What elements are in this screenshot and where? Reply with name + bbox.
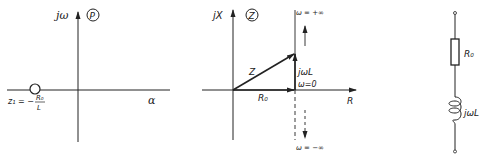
inductor-coil (449, 97, 461, 124)
z-x-axis-label: R (347, 96, 353, 106)
zero-fraction-num: R₀ (36, 94, 44, 102)
zero-label-prefix: z₁ = − (7, 97, 34, 106)
circuit-panel: R₀ jωL (449, 12, 479, 154)
z-marker-label: Z (248, 11, 256, 21)
pole-zero-panel: jω P α z₁ = − R₀ L (7, 9, 170, 142)
diagram-canvas: jω P α z₁ = − R₀ L jX Z R ω = +∞ ω = (0, 0, 493, 155)
p-x-axis-label: α (148, 94, 156, 107)
bottom-terminal (454, 150, 457, 153)
p-y-axis-label: jω (53, 9, 68, 22)
inductor-label: jωL (462, 108, 479, 118)
resistor (451, 39, 459, 65)
impedance-panel: jX Z R ω = +∞ ω = −∞ Z R₀ jωL ω=0 (202, 9, 356, 152)
impedance-vector (233, 54, 294, 90)
omega-plus-label: ω = +∞ (296, 9, 324, 17)
omega-minus-label: ω = −∞ (296, 144, 324, 152)
zero-fraction-den: L (37, 104, 41, 112)
top-terminal (454, 12, 457, 15)
real-part-label: R₀ (258, 93, 268, 103)
vector-z-label: Z (248, 67, 256, 77)
resistor-label: R₀ (464, 49, 474, 59)
imag-part-label: jωL (296, 67, 313, 77)
omega-zero-label: ω=0 (298, 80, 317, 89)
p-marker-label: P (90, 11, 96, 21)
z-y-axis-label: jX (211, 10, 224, 21)
zero-marker (30, 84, 40, 94)
